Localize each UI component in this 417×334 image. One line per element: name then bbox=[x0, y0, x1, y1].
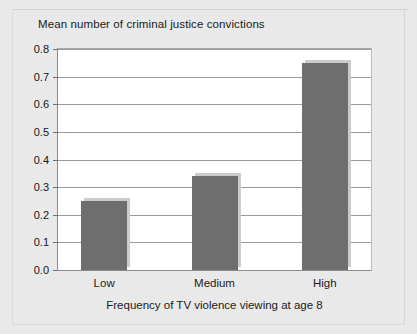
chart-figure: Mean number of criminal justice convicti… bbox=[0, 0, 417, 334]
chart-title: Mean number of criminal justice convicti… bbox=[38, 18, 265, 30]
y-axis-tick-label: 0.0 bbox=[34, 264, 49, 276]
y-axis-tick-mark bbox=[53, 270, 58, 271]
y-axis-tick-label: 0.4 bbox=[34, 154, 49, 166]
figure-frame-left-border bbox=[12, 9, 13, 325]
x-axis-tick-label: Medium bbox=[194, 277, 235, 289]
y-axis-tick-label: 0.1 bbox=[34, 236, 49, 248]
y-axis-tick-mark bbox=[53, 215, 58, 216]
y-axis-tick-label: 0.8 bbox=[34, 43, 49, 55]
x-axis-title: Frequency of TV violence viewing at age … bbox=[57, 299, 372, 311]
y-axis-tick-label: 0.3 bbox=[34, 181, 49, 193]
y-axis-tick-mark bbox=[53, 187, 58, 188]
y-axis-tick-mark bbox=[53, 160, 58, 161]
y-axis-tick-mark bbox=[53, 49, 58, 50]
gridline bbox=[58, 49, 371, 50]
y-axis-tick-mark bbox=[53, 242, 58, 243]
y-axis-tick-mark bbox=[53, 104, 58, 105]
bar-high bbox=[302, 63, 348, 270]
y-axis-tick-label: 0.7 bbox=[34, 71, 49, 83]
y-axis-tick-label: 0.6 bbox=[34, 98, 49, 110]
figure-frame-right-border bbox=[404, 9, 405, 325]
x-axis-tick-label: High bbox=[313, 277, 337, 289]
y-axis-tick-label: 0.2 bbox=[34, 209, 49, 221]
y-axis-tick-mark bbox=[53, 77, 58, 78]
figure-frame-top-border bbox=[12, 9, 408, 10]
plot-area: 0.00.10.20.30.40.50.60.70.8LowMediumHigh bbox=[57, 48, 372, 271]
bar-medium bbox=[192, 176, 238, 270]
bar-low bbox=[81, 201, 127, 270]
x-axis-tick-label: Low bbox=[94, 277, 115, 289]
y-axis-tick-mark bbox=[53, 132, 58, 133]
y-axis-tick-label: 0.5 bbox=[34, 126, 49, 138]
figure-frame-bottom-border bbox=[12, 324, 405, 325]
